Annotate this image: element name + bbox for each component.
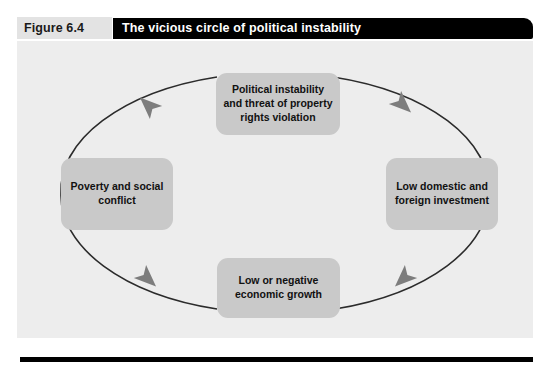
node-low-economic-growth: Low or negative economic growth <box>217 258 340 318</box>
node-poverty-social-conflict: Poverty and social conflict <box>61 158 173 230</box>
node-political-instability: Political instability and threat of prop… <box>216 73 340 135</box>
bottom-rule <box>20 357 533 362</box>
figure-container: Figure 6.4 The vicious circle of politic… <box>0 0 553 376</box>
node-low-investment: Low domestic and foreign investment <box>386 158 498 230</box>
arrowhead-bottom-right-icon <box>389 265 417 293</box>
arrowhead-top-right-icon <box>389 91 417 119</box>
arrowhead-bottom-left-icon <box>134 265 162 293</box>
figure-title: The vicious circle of political instabil… <box>122 19 361 38</box>
figure-label: Figure 6.4 <box>24 19 112 38</box>
